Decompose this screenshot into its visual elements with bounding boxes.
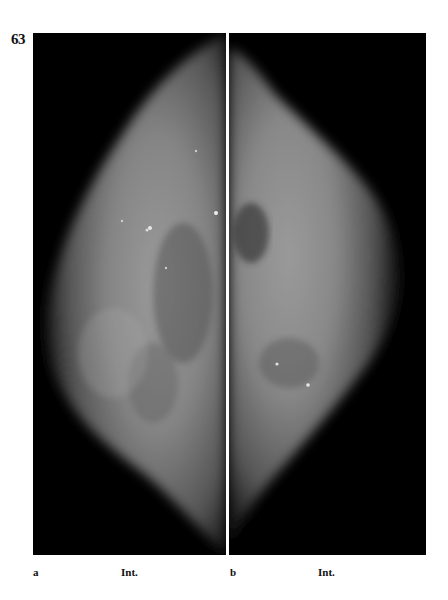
mammogram-panel-b — [229, 33, 426, 555]
panel-a-letter-label: a — [33, 566, 39, 578]
panel-b-letter-label: b — [230, 566, 236, 578]
breast-tissue-image-b — [229, 33, 426, 555]
panel-a-view-label: Int. — [121, 566, 138, 578]
panel-b-view-label: Int. — [318, 566, 335, 578]
breast-tissue-image-a — [33, 33, 226, 555]
figure-number: 63 — [11, 31, 25, 48]
mammogram-panel-a — [33, 33, 226, 555]
